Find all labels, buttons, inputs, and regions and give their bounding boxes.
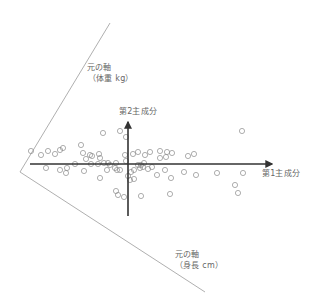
data-point: [113, 160, 118, 165]
data-point: [81, 168, 86, 173]
data-point: [83, 156, 88, 161]
data-point: [181, 169, 186, 174]
data-point: [193, 172, 198, 177]
data-point: [52, 151, 57, 156]
data-point: [169, 150, 174, 155]
data-point: [117, 167, 122, 172]
data-point: [167, 191, 172, 196]
data-point: [162, 167, 167, 172]
data-point: [80, 150, 85, 155]
data-point: [185, 153, 190, 158]
data-point: [147, 149, 152, 154]
data-point: [157, 155, 162, 160]
data-point: [149, 164, 154, 169]
data-point: [142, 152, 147, 157]
data-point: [130, 151, 135, 156]
data-point: [163, 154, 168, 159]
pca-diagram: [0, 0, 315, 306]
data-point: [43, 165, 48, 170]
data-point: [97, 175, 102, 180]
data-point: [145, 166, 150, 171]
data-point: [122, 152, 127, 157]
weight-axis-label-line2: （体重 kg）: [88, 74, 134, 84]
data-point: [113, 188, 118, 193]
height-axis-label-line2: （身長 cm）: [175, 261, 223, 271]
data-point: [239, 128, 244, 133]
data-point: [168, 175, 173, 180]
data-point: [214, 170, 219, 175]
data-point: [38, 152, 43, 157]
data-point: [89, 153, 94, 158]
data-point: [104, 167, 109, 172]
data-point: [135, 149, 140, 154]
data-point: [45, 148, 50, 153]
original-height-axis-line: [20, 172, 205, 292]
data-point: [138, 193, 143, 198]
data-point: [164, 149, 169, 154]
data-point: [157, 148, 162, 153]
data-point: [57, 167, 62, 172]
data-point: [154, 172, 159, 177]
pc2-label: 第2主成分: [119, 107, 157, 117]
data-point: [115, 192, 120, 197]
data-point: [78, 142, 83, 147]
data-point: [121, 194, 126, 199]
data-point: [235, 190, 240, 195]
data-point: [117, 128, 122, 133]
data-point: [232, 182, 237, 187]
data-point: [63, 170, 68, 175]
data-point: [100, 130, 105, 135]
data-point: [191, 151, 196, 156]
data-point: [64, 165, 69, 170]
weight-axis-label-line1: 元の軸: [87, 63, 112, 73]
data-point: [240, 170, 245, 175]
pc1-label: 第1主成分: [262, 169, 300, 179]
height-axis-label-line1: 元の軸: [175, 250, 200, 260]
